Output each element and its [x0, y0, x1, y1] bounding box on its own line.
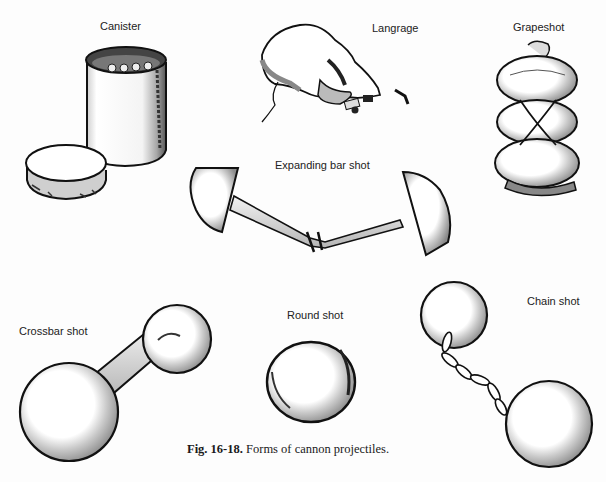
figure-caption-text: Forms of cannon projectiles.	[246, 442, 389, 456]
label-round-shot: Round shot	[287, 309, 343, 321]
label-chain-shot: Chain shot	[527, 295, 580, 307]
figure-caption: Fig. 16-18. Forms of cannon projectiles.	[187, 442, 389, 457]
label-expanding-bar-shot: Expanding bar shot	[275, 159, 370, 171]
langrage-drawing	[262, 25, 408, 122]
label-canister: Canister	[100, 20, 141, 32]
canister-drawing	[26, 47, 166, 199]
grapeshot-drawing	[495, 41, 579, 195]
figure-number: Fig. 16-18.	[187, 442, 243, 456]
chain-shot-drawing	[421, 282, 592, 467]
label-crossbar-shot: Crossbar shot	[19, 325, 87, 337]
label-langrage: Langrage	[372, 22, 419, 34]
projectile-illustrations	[0, 0, 606, 482]
label-grapeshot: Grapeshot	[513, 21, 564, 33]
cannon-projectiles-figure: Canister Langrage Grapeshot Expanding ba…	[0, 0, 606, 482]
expanding-bar-shot-drawing	[191, 168, 451, 255]
round-shot-drawing	[267, 342, 355, 422]
